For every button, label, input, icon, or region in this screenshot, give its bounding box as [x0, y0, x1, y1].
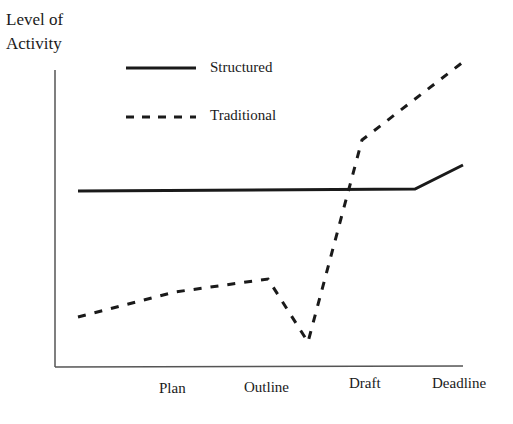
traditional-line [78, 62, 463, 342]
x-tick-outline: Outline [244, 379, 289, 396]
legend-structured-label: Structured [210, 59, 272, 76]
x-tick-draft: Draft [349, 375, 381, 392]
x-axis [55, 366, 463, 367]
x-tick-plan: Plan [159, 380, 186, 397]
structured-line [78, 165, 463, 191]
x-tick-deadline: Deadline [432, 375, 486, 392]
legend-traditional-label: Traditional [210, 107, 276, 124]
